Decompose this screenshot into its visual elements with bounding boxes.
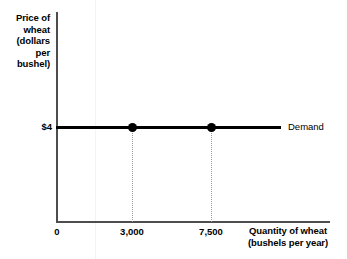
x-axis-title-line-2: (bushels per year) <box>232 237 344 249</box>
y-axis-title-line-3: (dollars <box>0 35 50 47</box>
x-axis-line <box>56 221 330 223</box>
x-axis-tick-label-origin: 0 <box>54 226 59 237</box>
data-point-3000 <box>128 123 137 132</box>
y-axis-title-line-1: Price of <box>0 12 50 24</box>
y-axis-tick-label-price: $4 <box>0 121 52 132</box>
drop-line-3000 <box>132 130 134 222</box>
demand-curve-line <box>56 126 281 129</box>
y-axis-line <box>56 12 58 223</box>
x-axis-title: Quantity of wheat (bushels per year) <box>232 225 344 248</box>
demand-curve-chart: Price of wheat (dollars per bushel) $4 D… <box>0 0 347 259</box>
data-point-7500 <box>207 123 216 132</box>
x-axis-tick-label-3000: 3,000 <box>120 226 144 237</box>
y-axis-title: Price of wheat (dollars per bushel) <box>0 12 50 70</box>
y-axis-title-line-4: per <box>0 47 50 59</box>
x-axis-tick-label-7500: 7,500 <box>199 226 223 237</box>
y-axis-title-line-2: wheat <box>0 24 50 36</box>
y-axis-title-line-5: bushel) <box>0 58 50 70</box>
drop-line-7500 <box>211 130 213 222</box>
x-axis-title-line-1: Quantity of wheat <box>232 225 344 237</box>
demand-series-label: Demand <box>288 121 324 132</box>
